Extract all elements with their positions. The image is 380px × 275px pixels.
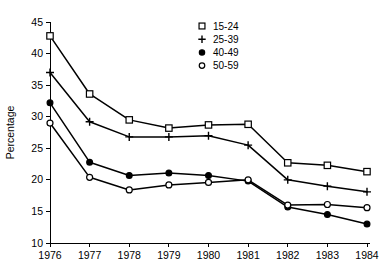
marker-filled-circle [87, 159, 93, 165]
legend-label-50-59: 50-59 [213, 60, 239, 71]
marker-filled-circle [47, 100, 53, 106]
marker-open-circle [199, 63, 205, 69]
marker-plus [165, 133, 173, 141]
legend-label-15-24: 15-24 [213, 21, 239, 32]
legend-label-25-39: 25-39 [213, 34, 239, 45]
y-axis-ticks: 1015202530354045 [31, 16, 50, 249]
y-tick-label: 20 [31, 173, 43, 185]
y-tick-label: 10 [31, 237, 43, 249]
marker-open-circle [364, 205, 370, 211]
y-tick-label: 30 [31, 110, 43, 122]
x-tick-label: 1982 [276, 249, 300, 261]
marker-open-square [245, 121, 251, 127]
marker-open-circle [87, 174, 93, 180]
series-40-49 [47, 100, 370, 227]
legend-item-50-59: 50-59 [199, 60, 239, 71]
series-line-15-24 [50, 36, 367, 172]
marker-open-circle [206, 179, 212, 185]
y-tick-label: 25 [31, 142, 43, 154]
marker-filled-circle [364, 221, 370, 227]
marker-filled-circle [126, 173, 132, 179]
marker-open-square [126, 117, 132, 123]
marker-open-circle [285, 202, 291, 208]
legend-label-40-49: 40-49 [213, 47, 239, 58]
marker-open-circle [245, 177, 251, 183]
marker-open-square [324, 162, 330, 168]
legend-item-40-49: 40-49 [199, 47, 239, 58]
marker-open-circle [126, 187, 132, 193]
x-tick-label: 1981 [236, 249, 260, 261]
chart-canvas: 1015202530354045 19761977197819791980198… [0, 0, 380, 275]
x-tick-label: 1980 [197, 249, 221, 261]
legend-item-25-39: 25-39 [198, 34, 239, 45]
axes [50, 22, 370, 243]
marker-open-circle [166, 182, 172, 188]
axis-spines [50, 22, 370, 243]
y-axis-title: Percentage [4, 105, 16, 159]
x-tick-label: 1978 [118, 249, 142, 261]
x-tick-label: 1984 [355, 249, 379, 261]
line-chart: 1015202530354045 19761977197819791980198… [0, 0, 380, 275]
marker-open-square [47, 33, 53, 39]
marker-open-circle [324, 201, 330, 207]
legend-item-15-24: 15-24 [199, 21, 239, 32]
marker-open-square [364, 168, 370, 174]
x-tick-label: 1976 [38, 249, 62, 261]
x-tick-label: 1983 [316, 249, 340, 261]
y-tick-label: 15 [31, 205, 43, 217]
marker-plus [363, 188, 371, 196]
data-series [46, 33, 371, 227]
marker-plus [323, 182, 331, 190]
marker-filled-circle [166, 170, 172, 176]
chart-legend: 15-2425-3940-4950-59 [198, 21, 239, 72]
marker-plus [198, 36, 205, 43]
y-tick-label: 45 [31, 16, 43, 28]
marker-open-square [86, 91, 92, 97]
marker-filled-circle [206, 173, 212, 179]
marker-open-square [166, 125, 172, 131]
y-tick-label: 35 [31, 79, 43, 91]
marker-open-square [285, 160, 291, 166]
marker-plus [125, 133, 133, 141]
x-tick-label: 1977 [78, 249, 102, 261]
marker-open-square [199, 23, 205, 29]
marker-filled-circle [199, 50, 204, 55]
y-tick-label: 40 [31, 47, 43, 59]
marker-filled-circle [324, 212, 330, 218]
marker-open-circle [47, 120, 53, 126]
marker-open-square [205, 122, 211, 128]
marker-plus [205, 132, 213, 140]
x-tick-label: 1979 [157, 249, 181, 261]
series-15-24 [47, 33, 370, 175]
series-line-40-49 [50, 103, 367, 224]
x-axis-ticks: 197619771978197919801981198219831984 [38, 243, 379, 261]
